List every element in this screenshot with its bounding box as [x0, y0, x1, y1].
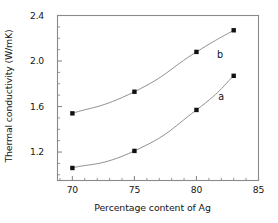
- data-point-b-80: [194, 50, 198, 54]
- axes-frame: [58, 16, 259, 181]
- plot-area: [0, 0, 278, 223]
- series-line-a: [72, 76, 233, 168]
- series-line-b: [72, 30, 233, 113]
- data-point-b-83: [231, 28, 235, 32]
- data-point-a-80: [194, 108, 198, 112]
- data-point-a-75: [132, 149, 136, 153]
- axes-ticks: [58, 16, 259, 181]
- series-label-a: a: [218, 92, 224, 102]
- axes-frame-rect: [58, 16, 259, 181]
- data-point-a-83: [231, 74, 235, 78]
- data-series-group: [70, 28, 236, 170]
- figure-canvas: Thermal conductivity (W/mK) Percentage c…: [0, 0, 278, 223]
- data-point-b-70: [70, 111, 74, 115]
- data-point-a-70: [70, 166, 74, 170]
- series-label-b: b: [217, 50, 223, 60]
- data-point-b-75: [132, 90, 136, 94]
